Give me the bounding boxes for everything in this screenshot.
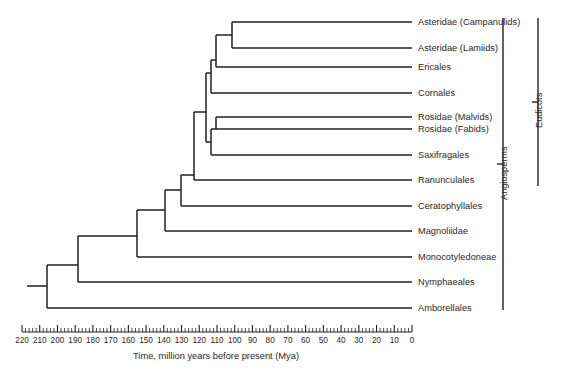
tree-drawing (0, 0, 561, 377)
leaf-label-amborellales: Amborellales (418, 304, 472, 313)
leaf-label-asteridae-campanulids: Asteridae (Campanulids) (418, 18, 520, 27)
leaf-label-rosidae-fabids: Rosidae (Fabids) (418, 125, 489, 134)
axis-tick-label: 0 (400, 337, 424, 345)
leaf-label-ranunculales: Ranunculales (418, 176, 474, 185)
clade-label-angiosperms: Angiosperms (500, 146, 509, 200)
leaf-label-nymphaeales: Nymphaeales (418, 278, 475, 287)
leaf-label-magnoliidae: Magnoliidae (418, 227, 468, 236)
leaf-label-rosidae-malvids: Rosidae (Malvids) (418, 113, 492, 122)
clade-label-eudicots: Eudicots (535, 93, 544, 128)
time-axis (22, 325, 412, 332)
leaf-label-ceratophyllales: Ceratophyllales (418, 202, 482, 211)
leaf-label-ericales: Ericales (418, 63, 451, 72)
leaf-label-saxifragales: Saxifragales (418, 151, 469, 160)
leaf-label-asteridae-lamiids: Asteridae (Lamiids) (418, 44, 498, 53)
phylogenetic-tree-figure: Asteridae (Campanulids) Asteridae (Lamii… (0, 0, 561, 377)
tree-branches (27, 22, 412, 308)
leaf-label-cornales: Cornales (418, 89, 455, 98)
axis-ticks (22, 325, 412, 332)
axis-caption: Time, million years before present (Mya) (133, 352, 299, 361)
leaf-label-monocotyledoneae: Monocotyledoneae (418, 253, 496, 262)
